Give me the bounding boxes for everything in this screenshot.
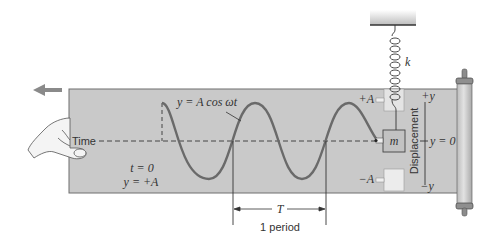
spring-wave-diagram: y = A cos ωt Time t = 0 y = +A +A −A m k… <box>0 0 503 250</box>
period-caption: 1 period <box>260 221 300 233</box>
minus-A-label: −A <box>359 172 375 186</box>
initial-t-label: t = 0 <box>130 161 153 175</box>
minus-A-box <box>384 169 404 191</box>
time-label: Time <box>72 135 96 147</box>
ceiling-mount <box>370 10 416 25</box>
plus-A-pen <box>376 98 384 102</box>
roller-icon <box>456 69 473 216</box>
period-symbol: T <box>277 202 285 216</box>
pen-tip <box>374 139 377 142</box>
plus-A-label: +A <box>359 92 375 106</box>
equation-label: y = A cos ωt <box>176 95 238 109</box>
spring-constant-label: k <box>405 55 411 69</box>
mass-label: m <box>390 134 399 148</box>
initial-y-label: y = +A <box>123 175 160 189</box>
motion-arrow-icon <box>33 84 62 96</box>
minus-A-pen <box>376 178 384 182</box>
minus-y-label: −y <box>420 179 434 193</box>
y-zero-label: y = 0 <box>429 134 455 148</box>
plus-y-label: +y <box>421 89 435 103</box>
displacement-label: Displacement <box>408 108 420 175</box>
